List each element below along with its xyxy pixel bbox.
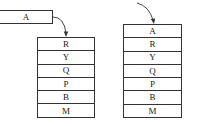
incoming-arrow-icon [137, 3, 155, 24]
arrows-layer [0, 0, 198, 126]
push-arrow-icon [53, 17, 68, 37]
